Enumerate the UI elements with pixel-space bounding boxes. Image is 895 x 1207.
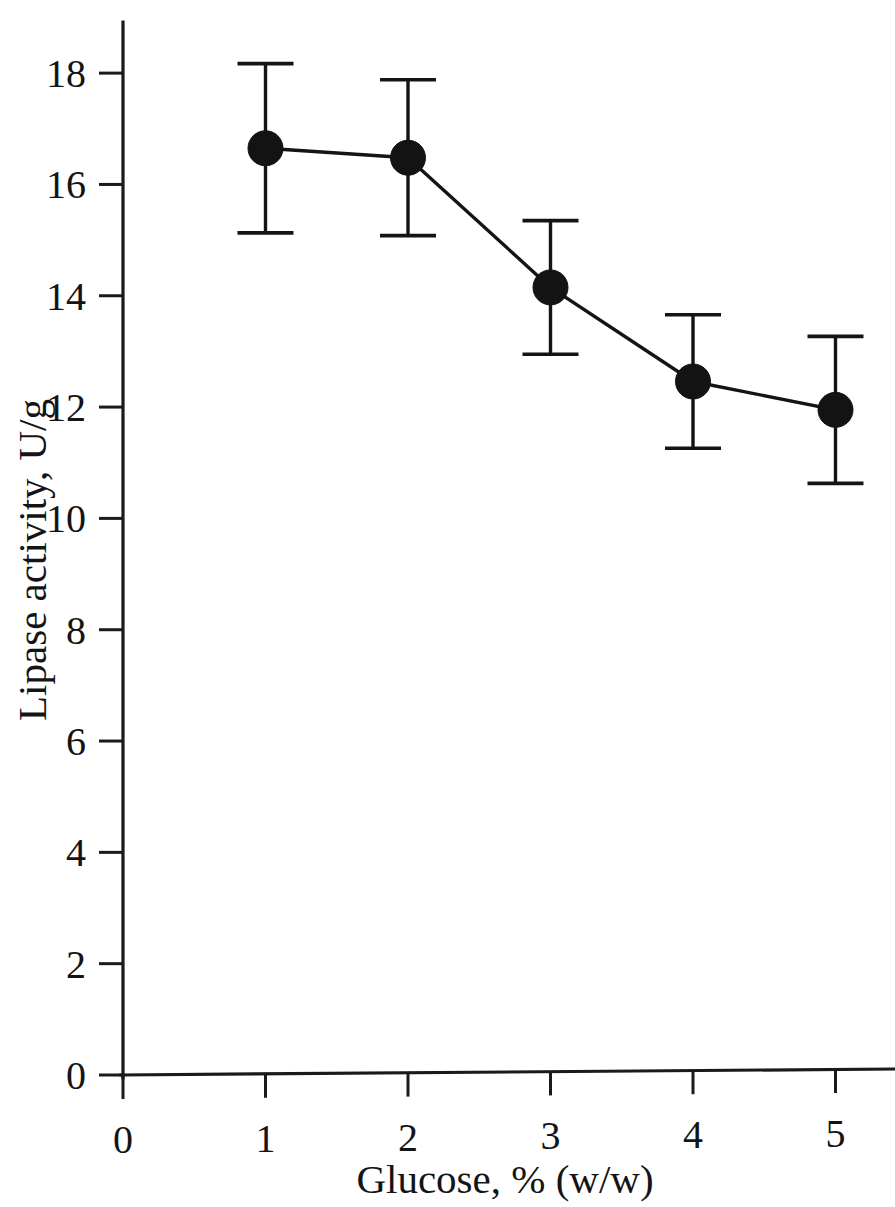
chart-figure: 024681012141618 012345 Glucose, % (w/w) …: [0, 0, 895, 1207]
y-axis-ticks: [99, 73, 123, 1075]
line-chart-plot: 024681012141618 012345 Glucose, % (w/w) …: [0, 0, 895, 1207]
y-tick-label-0: 0: [66, 1053, 86, 1098]
x-tick-label-5: 5: [826, 1111, 846, 1156]
data-point-2: [391, 140, 426, 175]
y-tick-label-8: 8: [66, 608, 86, 653]
y-tick-label-2: 2: [66, 942, 86, 987]
y-tick-label-14: 14: [46, 274, 86, 319]
y-axis-title: Lipase activity, U/g: [9, 399, 55, 721]
y-tick-label-16: 16: [46, 162, 86, 207]
x-tick-label-0: 0: [113, 1117, 133, 1162]
y-tick-label-6: 6: [66, 719, 86, 764]
x-axis-title: Glucose, % (w/w): [356, 1156, 653, 1202]
data-point-4: [676, 364, 711, 399]
x-tick-label-1: 1: [256, 1116, 276, 1161]
x-tick-label-3: 3: [541, 1113, 561, 1158]
y-tick-label-18: 18: [46, 51, 86, 96]
data-point-1: [248, 131, 283, 166]
data-point-5: [818, 392, 853, 427]
data-point-markers: [248, 131, 853, 428]
x-tick-label-2: 2: [398, 1115, 418, 1160]
x-axis-line: [121, 1069, 895, 1075]
x-axis-tick-labels: 012345: [113, 1111, 846, 1162]
y-tick-label-4: 4: [66, 830, 86, 875]
x-tick-label-4: 4: [683, 1112, 703, 1157]
data-point-3: [533, 270, 568, 305]
